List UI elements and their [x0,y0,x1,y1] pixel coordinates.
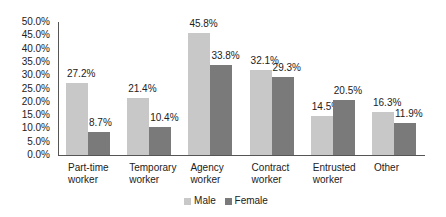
legend: Male Female [0,195,446,206]
bar-male [188,33,210,155]
category-label-line: worker [313,174,356,186]
legend-label-female: Female [235,195,268,206]
category-label-line: Other [374,162,399,174]
y-tick-label: 15.0% [0,110,50,120]
y-tick-label: 20.0% [0,97,50,107]
y-axis-line [58,22,59,155]
x-axis-line [58,155,425,156]
bar-value-label: 8.7% [89,118,112,128]
bar-male [250,70,272,155]
category-label: Agencyworker [190,162,223,186]
category-label-line: Part-time [68,162,109,174]
y-tick-label: 5.0% [0,137,50,147]
category-label: Other [374,162,399,174]
legend-swatch-female [225,198,232,205]
bar-value-label: 27.2% [67,69,95,79]
category-label-line: Agency [190,162,223,174]
y-tick-label: 0.0% [0,150,50,160]
bar-value-label: 45.8% [189,19,217,29]
legend-label-male: Male [194,195,216,206]
category-label: Contractworker [252,162,290,186]
category-label-line: worker [129,174,176,186]
bar-value-label: 21.4% [128,84,156,94]
bar-male [372,112,394,155]
bar-male [311,116,333,155]
category-label: Part-timeworker [68,162,109,186]
y-tick-label: 40.0% [0,44,50,54]
bar-female [149,127,171,155]
legend-swatch-male [184,198,191,205]
y-tick-label: 50.0% [0,17,50,27]
bar-chart: Male Female 0.0%5.0%10.0%15.0%20.0%25.0%… [0,0,446,217]
category-label: Temporaryworker [129,162,176,186]
category-label-line: Entrusted [313,162,356,174]
category-label-line: worker [252,174,290,186]
bar-female [333,100,355,155]
category-label-line: Temporary [129,162,176,174]
bar-female [88,132,110,155]
bar-female [210,65,232,155]
category-label-line: worker [190,174,223,186]
bar-value-label: 16.3% [373,98,401,108]
category-label-line: Contract [252,162,290,174]
bar-male [66,83,88,155]
y-tick-label: 35.0% [0,57,50,67]
y-tick-label: 30.0% [0,70,50,80]
bar-value-label: 33.8% [211,51,239,61]
y-tick-label: 25.0% [0,84,50,94]
bar-value-label: 11.9% [395,109,423,119]
bar-male [127,98,149,155]
bar-value-label: 29.3% [273,63,301,73]
bar-value-label: 20.5% [334,86,362,96]
category-label-line: worker [68,174,109,186]
bar-female [394,123,416,155]
category-label: Entrustedworker [313,162,356,186]
bar-value-label: 10.4% [150,113,178,123]
y-tick-label: 10.0% [0,123,50,133]
bar-female [272,77,294,155]
y-tick-label: 45.0% [0,30,50,40]
